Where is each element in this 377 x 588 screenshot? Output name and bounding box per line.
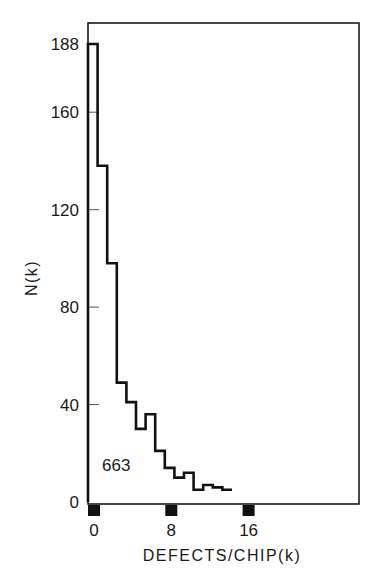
total-count-annotation: 663 <box>102 456 130 475</box>
y-tick-label: 0 <box>70 493 79 512</box>
x-tick-marker <box>88 505 100 516</box>
x-tick-marker <box>243 505 255 516</box>
y-tick-label: 80 <box>60 298 79 317</box>
y-tick-label: 120 <box>51 201 79 220</box>
x-axis-ticks: 0816 <box>88 505 258 540</box>
x-tick-label: 8 <box>167 521 176 540</box>
plot-frame <box>88 23 359 504</box>
x-axis-title: DEFECTS/CHIP(k) <box>143 547 302 564</box>
histogram-chart: 04080120160188 0816 663 N(k) DEFECTS/CHI… <box>0 0 377 588</box>
x-tick-label: 0 <box>89 521 98 540</box>
y-tick-label: 160 <box>51 103 79 122</box>
y-axis-ticks: 04080120160188 <box>51 35 99 512</box>
y-tick-label: 188 <box>51 35 79 54</box>
histogram-step-line <box>88 44 232 502</box>
y-axis-title: N(k) <box>23 260 40 296</box>
y-tick-label: 40 <box>60 396 79 415</box>
x-tick-label: 16 <box>239 521 258 540</box>
x-tick-marker <box>165 505 177 516</box>
